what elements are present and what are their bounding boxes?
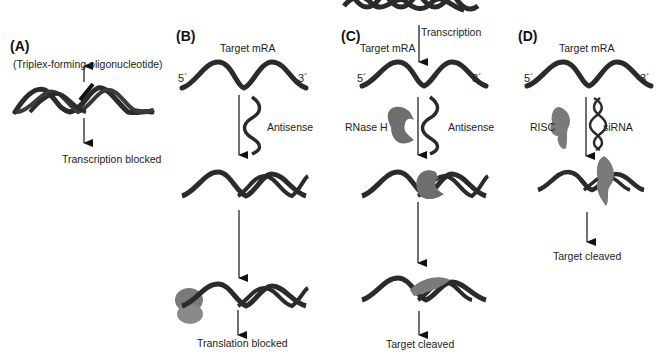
panel-label-d: (D) — [518, 28, 537, 44]
antisense-label: Antisense — [267, 121, 313, 133]
rnase-h-label: RNase H — [345, 121, 388, 133]
target-mrna-label: Target mRA — [360, 42, 415, 54]
panel-label-a: (A) — [10, 38, 29, 54]
panel-d-illustration — [527, 62, 651, 242]
rnase-h-bound-hybrid — [362, 170, 488, 199]
outcome-label-d: Target cleaved — [553, 250, 621, 262]
triplex-oligo-label: (Triplex-forming oligonucleotide) — [13, 58, 163, 70]
transcription-label: Transcription — [421, 26, 481, 38]
antisense-strand-icon — [245, 97, 260, 154]
sirna-label: siRNA — [603, 121, 633, 133]
panel-c-illustration — [362, 25, 488, 335]
five-prime-label: 5´ — [524, 72, 534, 84]
panel-a-illustration — [15, 66, 152, 143]
outcome-label-b: Translation blocked — [197, 337, 288, 349]
outcome-label-c: Target cleaved — [386, 338, 454, 350]
dna-double-helix-top — [344, 0, 478, 10]
five-prime-label: 5´ — [357, 72, 367, 84]
mrna-strand — [182, 62, 306, 88]
target-mrna-label: Target mRA — [559, 42, 614, 54]
outcome-label-a: Transcription blocked — [62, 153, 161, 165]
three-prime-label: 3´ — [640, 72, 650, 84]
risc-bound-target — [538, 156, 644, 206]
mrna-strand — [362, 62, 486, 86]
rnase-h-icon — [388, 107, 414, 144]
mrna-antisense-hybrid — [182, 172, 308, 196]
diagram-canvas — [0, 0, 656, 358]
panel-b-illustration — [175, 62, 308, 335]
cleaved-hybrid — [362, 277, 486, 300]
three-prime-label: 3´ — [298, 72, 308, 84]
risc-label: RISC — [530, 121, 555, 133]
dna-double-helix — [15, 88, 152, 113]
antisense-strand-icon — [423, 97, 438, 154]
mrna-strand — [527, 62, 651, 86]
target-mrna-label: Target mRA — [220, 42, 275, 54]
three-prime-label: 3´ — [472, 72, 482, 84]
panel-label-b: (B) — [176, 28, 195, 44]
antisense-label: Antisense — [448, 121, 494, 133]
five-prime-label: 5´ — [178, 72, 188, 84]
panel-label-c: (C) — [341, 28, 360, 44]
